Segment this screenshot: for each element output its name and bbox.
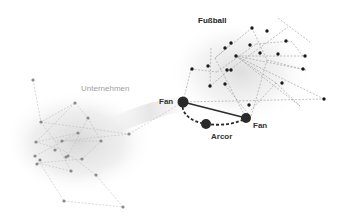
node[interactable] — [64, 155, 67, 158]
node[interactable] — [229, 68, 232, 71]
node[interactable] — [208, 84, 211, 87]
node[interactable] — [35, 162, 38, 165]
node[interactable] — [34, 140, 37, 143]
cluster-label-fussball: Fußball — [198, 16, 226, 25]
node[interactable] — [69, 169, 72, 172]
node[interactable] — [223, 82, 226, 85]
node[interactable] — [229, 41, 232, 44]
node-label-arcor: Arcor — [211, 132, 232, 141]
node[interactable] — [86, 116, 89, 119]
node[interactable] — [31, 78, 34, 81]
cluster-label-unternehmen: Unternehmen — [81, 84, 129, 93]
node[interactable] — [258, 51, 261, 54]
node[interactable] — [284, 39, 287, 42]
node[interactable] — [225, 68, 228, 71]
node[interactable] — [301, 67, 304, 70]
node[interactable] — [38, 158, 41, 161]
node[interactable] — [127, 132, 130, 135]
node-label-fan-right: Fan — [253, 121, 267, 130]
node[interactable] — [276, 52, 279, 55]
node[interactable] — [73, 101, 76, 104]
node[interactable] — [99, 139, 102, 142]
network-diagram — [0, 0, 344, 220]
node-fan-left[interactable] — [178, 97, 189, 108]
node[interactable] — [76, 131, 79, 134]
node[interactable] — [53, 148, 56, 151]
node[interactable] — [322, 97, 325, 100]
node[interactable] — [234, 54, 237, 57]
node[interactable] — [223, 46, 226, 49]
cluster-halos — [3, 20, 312, 194]
node[interactable] — [60, 139, 63, 142]
node-label-fan-left: Fan — [159, 97, 173, 106]
node[interactable] — [206, 64, 209, 67]
node[interactable] — [80, 157, 83, 160]
node[interactable] — [121, 205, 124, 208]
node[interactable] — [250, 26, 253, 29]
node[interactable] — [280, 81, 283, 84]
node[interactable] — [39, 120, 42, 123]
node[interactable] — [303, 54, 306, 57]
node[interactable] — [265, 29, 268, 32]
node[interactable] — [248, 43, 251, 46]
halo-unternehmen — [3, 90, 153, 194]
node[interactable] — [247, 103, 250, 106]
node[interactable] — [190, 67, 193, 70]
node[interactable] — [94, 173, 97, 176]
node[interactable] — [62, 199, 65, 202]
node-arcor[interactable] — [201, 119, 211, 129]
node-fan-right[interactable] — [241, 113, 251, 123]
node[interactable] — [33, 154, 36, 157]
